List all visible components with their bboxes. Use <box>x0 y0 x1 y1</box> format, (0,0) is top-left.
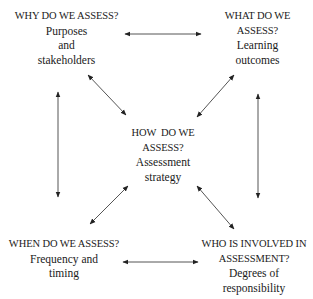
node-who: WHO IS INVOLVED IN ASSESSMENT? Degrees o… <box>195 237 313 295</box>
node-how-question-1: HOW DO WE <box>118 126 208 141</box>
arrow-why-how <box>88 75 126 115</box>
node-who-answer-2: responsibility <box>195 281 313 296</box>
node-when: WHEN DO WE ASSESS? Frequency and timing <box>2 237 126 281</box>
node-how: HOW DO WE ASSESS? Assessment strategy <box>118 126 208 184</box>
arrow-when-how <box>90 186 128 224</box>
arrow-what-how <box>197 75 234 117</box>
node-what-question-2: ASSESS? <box>210 24 305 39</box>
node-what-question-1: WHAT DO WE <box>210 9 305 24</box>
arrow-who-how <box>197 186 234 229</box>
node-why-answer-1: Purposes <box>4 24 129 39</box>
node-when-answer-1: Frequency and <box>2 252 126 267</box>
node-why-answer-2: and <box>4 38 129 53</box>
node-when-question: WHEN DO WE ASSESS? <box>2 237 126 252</box>
node-who-question-1: WHO IS INVOLVED IN <box>195 237 313 252</box>
node-what-answer-2: outcomes <box>210 53 305 68</box>
node-what-answer-1: Learning <box>210 38 305 53</box>
node-how-question-2: ASSESS? <box>118 141 208 156</box>
node-who-answer-1: Degrees of <box>195 266 313 281</box>
node-how-answer-1: Assessment <box>118 155 208 170</box>
node-why-answer-3: stakeholders <box>4 53 129 68</box>
node-when-answer-2: timing <box>2 266 126 281</box>
node-who-question-2: ASSESSMENT? <box>195 252 313 267</box>
node-why: WHY DO WE ASSESS? Purposes and stakehold… <box>4 9 129 67</box>
node-why-question: WHY DO WE ASSESS? <box>4 9 129 24</box>
node-what: WHAT DO WE ASSESS? Learning outcomes <box>210 9 305 67</box>
node-how-answer-2: strategy <box>118 170 208 185</box>
